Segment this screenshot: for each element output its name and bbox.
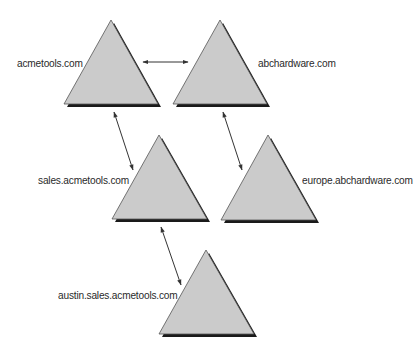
trust-arrow-abchardware-europe-abchardware [223, 112, 242, 170]
label-austin-sales-acmetools: austin.sales.acmetools.com [58, 289, 178, 302]
label-sales-acmetools: sales.acmetools.com [38, 174, 129, 187]
label-abchardware: abchardware.com [258, 57, 336, 70]
label-europe-abchardware: europe.abchardware.com [302, 174, 413, 187]
trust-arrow-acmetools-sales-acmetools [114, 112, 133, 170]
domain-triangle-abchardware [173, 20, 270, 107]
trust-arrow-sales-acmetools-austin-sales-acmetools [161, 227, 181, 285]
label-acmetools: acmetools.com [17, 57, 83, 70]
